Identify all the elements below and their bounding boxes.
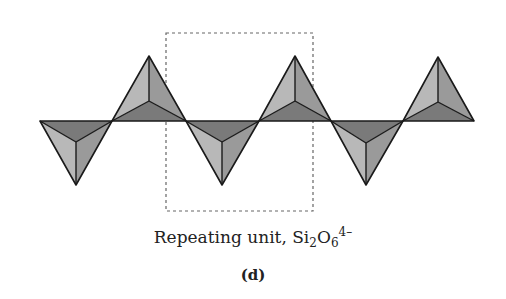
caption-sub-si: 2 — [309, 236, 317, 250]
tetrahedron-up — [112, 56, 186, 121]
tetrahedron-up — [403, 57, 474, 121]
caption-text: Repeating unit, Si — [154, 227, 310, 247]
tetrahedron-down — [331, 121, 403, 185]
silicate-chain-diagram — [0, 0, 506, 299]
tetrahedron-down — [186, 121, 259, 185]
tetrahedron-down — [40, 121, 112, 185]
caption-charge: 4– — [339, 225, 353, 239]
caption-oxygen: O — [317, 227, 331, 247]
tetrahedron-up — [259, 56, 331, 121]
panel-label: (d) — [0, 266, 506, 284]
caption-sub-o: 6 — [331, 236, 339, 250]
repeating-unit-caption: Repeating unit, Si2O64– — [0, 225, 506, 250]
